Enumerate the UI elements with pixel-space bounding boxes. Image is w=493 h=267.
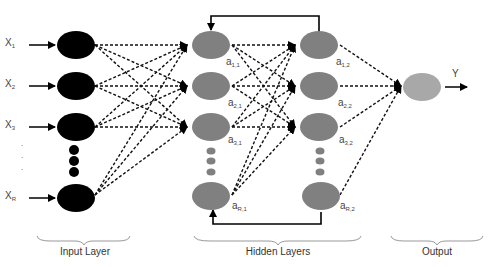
hidden-node-a22: [300, 72, 338, 100]
hidden-label-ar1: aR,1: [232, 200, 247, 212]
output-node: [403, 73, 441, 101]
hidden-node-ar2: [302, 182, 340, 210]
hidden-layers-label: Hidden Layers: [218, 246, 338, 257]
input-label-x3: X3: [5, 119, 15, 131]
ellipsis-dot: [69, 156, 79, 166]
ellipsis-dot: [207, 158, 216, 165]
input-node-xr: [57, 184, 95, 212]
input-node-x3: [57, 113, 95, 141]
hidden-label-a31: a3,1: [228, 134, 242, 146]
ellipsis-dot: [69, 167, 79, 177]
hidden-label-a21: a2,1: [228, 97, 242, 109]
hidden-label-ar2: aR,2: [340, 200, 355, 212]
input-ellipsis: ...: [21, 138, 23, 174]
ellipsis-dot: [316, 158, 325, 165]
hidden-node-ar1: [192, 182, 230, 210]
output-layer-label: Output: [397, 246, 477, 257]
input-node-x1: [57, 31, 95, 59]
hidden-node-a31: [192, 113, 230, 141]
ellipsis-dot: [69, 145, 79, 155]
feedback-loop-top: [211, 16, 319, 32]
hidden-label-a11: a1,1: [226, 56, 240, 68]
input-label-x2: X2: [5, 78, 15, 90]
ellipsis-dot: [207, 169, 216, 176]
ellipsis-dot: [316, 148, 325, 155]
hidden1-to-hidden2-connections: [232, 45, 295, 195]
neural-network-diagram: [0, 0, 493, 267]
input-node-x2: [57, 72, 95, 100]
hidden-node-a32: [300, 113, 338, 141]
input-arrows: [29, 45, 55, 198]
hidden-layer-1-nodes: [192, 31, 230, 210]
braces: [37, 236, 483, 245]
input-label-xr: XR: [5, 190, 16, 202]
ellipsis-dot: [316, 169, 325, 176]
input-nodes: [57, 31, 95, 212]
hidden-node-a12: [300, 31, 338, 59]
hidden-layer-2-nodes: [300, 31, 340, 210]
feedback-loop-bottom: [213, 210, 321, 224]
input-layer-label: Input Layer: [35, 246, 135, 257]
input-label-x1: X1: [5, 37, 15, 49]
hidden-label-a12: a1,2: [336, 56, 350, 68]
output-label-y: Y: [452, 68, 459, 79]
input-to-hidden1-connections: [95, 45, 187, 195]
ellipsis-dot: [207, 148, 216, 155]
hidden-node-a11: [192, 31, 230, 59]
hidden-label-a22: a2,2: [338, 97, 352, 109]
hidden-label-a32: a3,2: [339, 134, 353, 146]
hidden-node-a21: [192, 72, 230, 100]
